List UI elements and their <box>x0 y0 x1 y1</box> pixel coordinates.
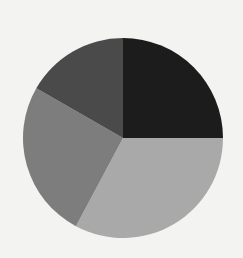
pie-slices <box>23 38 223 238</box>
pie-slice-1 <box>123 38 223 138</box>
pie-chart <box>0 0 243 258</box>
